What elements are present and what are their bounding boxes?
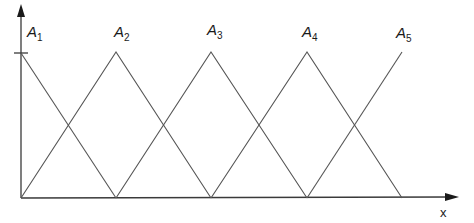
label-a2: A2 [113, 23, 130, 43]
x-axis-arrow-icon [445, 193, 459, 201]
x-axis: x [21, 193, 459, 220]
set-labels: A1 A2 A3 A4 A5 [26, 21, 412, 44]
label-a3: A3 [206, 21, 223, 41]
membership-function-diagram: x A1 A2 A3 A4 A5 [0, 0, 474, 223]
y-axis [14, 4, 28, 198]
mf-a2 [21, 52, 211, 198]
mf-a4 [211, 52, 402, 198]
label-a4: A4 [301, 23, 318, 43]
label-a5: A5 [395, 24, 412, 44]
mf-a3 [116, 52, 307, 198]
y-axis-arrow-icon [17, 4, 25, 17]
x-axis-label: x [440, 205, 447, 220]
label-a1: A1 [26, 23, 43, 43]
membership-functions [21, 52, 402, 198]
